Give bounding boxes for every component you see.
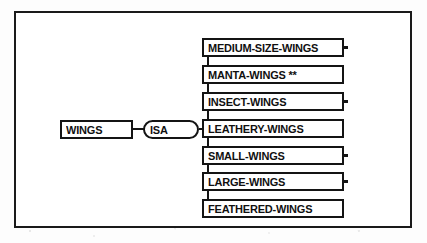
- figure-frame-border: WINGS ISA MEDIUM-SIZE-WINGS: [14, 11, 412, 228]
- figure-page: WINGS ISA MEDIUM-SIZE-WINGS: [0, 0, 427, 243]
- node-insect-wings-label: INSECT-WINGS: [204, 95, 286, 108]
- node-large-wings-label: LARGE-WINGS: [204, 175, 285, 188]
- node-small-wings-label: SMALL-WINGS: [204, 149, 285, 162]
- node-large-wings[interactable]: LARGE-WINGS: [202, 172, 344, 191]
- node-manta-wings-label: MANTA-WINGS **: [204, 68, 297, 81]
- node-feathered-wings[interactable]: FEATHERED-WINGS: [202, 199, 344, 218]
- node-wings-label: WINGS: [62, 123, 102, 136]
- node-insect-wings[interactable]: INSECT-WINGS: [202, 92, 344, 111]
- node-medium-size-wings[interactable]: MEDIUM-SIZE-WINGS: [202, 38, 344, 57]
- node-feathered-wings-label: FEATHERED-WINGS: [204, 202, 312, 215]
- terminal-stub-large-wings: [344, 180, 348, 183]
- node-isa[interactable]: ISA: [143, 120, 199, 139]
- terminal-stub-medium-size-wings: [344, 46, 348, 49]
- node-medium-size-wings-label: MEDIUM-SIZE-WINGS: [204, 41, 318, 54]
- node-isa-label: ISA: [145, 123, 168, 136]
- diagram-canvas: WINGS ISA MEDIUM-SIZE-WINGS: [16, 13, 410, 226]
- terminal-stub-small-wings: [344, 154, 348, 157]
- node-small-wings[interactable]: SMALL-WINGS: [202, 146, 344, 165]
- node-leathery-wings[interactable]: LEATHERY-WINGS: [202, 119, 344, 138]
- terminal-stub-insect-wings: [344, 100, 348, 103]
- node-leathery-wings-label: LEATHERY-WINGS: [204, 122, 304, 135]
- node-wings[interactable]: WINGS: [60, 120, 133, 139]
- node-manta-wings[interactable]: MANTA-WINGS **: [202, 65, 344, 84]
